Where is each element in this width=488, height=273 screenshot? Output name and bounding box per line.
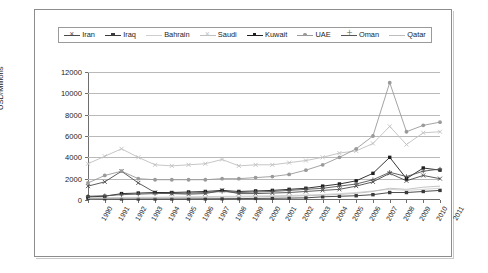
data-point-marker: [220, 197, 223, 200]
legend-swatch-qatar-icon: [389, 32, 405, 39]
data-point-marker: [371, 172, 374, 175]
data-point-marker: [388, 156, 391, 159]
legend-swatch-uae-icon: [297, 32, 313, 39]
data-point-marker: [136, 181, 140, 185]
x-tick-mark: [373, 200, 374, 203]
legend-item-iran[interactable]: ✕Iran: [64, 31, 95, 38]
data-point-marker: [270, 175, 274, 179]
chart-legend: ✕IranIraqBahrain✕SaudiKuwaitUAE＋OmanQata…: [58, 27, 432, 43]
series-line: [88, 186, 440, 198]
data-point-marker: [120, 169, 124, 173]
data-point-marker: [220, 177, 224, 181]
series-line: [88, 169, 440, 196]
data-point-marker: [438, 120, 442, 124]
data-point-marker: [304, 168, 308, 172]
data-point-marker: [388, 124, 392, 128]
legend-label: Iraq: [123, 31, 136, 38]
x-tick-mark: [306, 200, 307, 203]
legend-item-bahrain[interactable]: Bahrain: [146, 31, 189, 38]
data-point-marker: [405, 130, 409, 134]
data-point-marker: [405, 191, 408, 194]
data-point-marker: [153, 178, 157, 182]
data-point-marker: [422, 190, 425, 193]
data-point-marker: [354, 147, 358, 151]
legend-item-oman[interactable]: ＋Oman: [341, 31, 379, 38]
data-point-marker: [203, 178, 207, 182]
legend-swatch-iraq-icon: [105, 32, 121, 39]
legend-item-uae[interactable]: UAE: [297, 31, 330, 38]
series-saudi: [86, 124, 442, 167]
data-point-marker: [187, 178, 191, 182]
data-point-marker: [86, 181, 90, 185]
legend-swatch-oman-icon: ＋: [341, 32, 357, 39]
legend-label: Bahrain: [164, 31, 189, 38]
legend-swatch-bahrain-icon: [146, 32, 162, 39]
data-point-marker: [371, 134, 375, 138]
x-tick-mark: [356, 200, 357, 203]
legend-item-kuwait[interactable]: Kuwait: [247, 31, 287, 38]
legend-label: UAE: [315, 31, 330, 38]
x-tick-mark: [323, 200, 324, 203]
series-line: [88, 83, 440, 183]
data-point-marker: [287, 173, 291, 177]
x-tick-mark: [88, 200, 89, 203]
y-tick-label: 12000: [44, 68, 82, 77]
data-point-marker: [170, 178, 174, 182]
x-tick-mark: [272, 200, 273, 203]
data-point-marker: [388, 81, 392, 85]
data-point-marker: [136, 155, 140, 159]
x-tick-mark: [440, 200, 441, 203]
y-tick-label: 4000: [44, 153, 82, 162]
data-point-marker: [136, 177, 140, 181]
data-point-marker: [404, 143, 408, 147]
data-point-marker: [421, 123, 425, 127]
x-tick-mark: [256, 200, 257, 203]
data-point-marker: [103, 154, 107, 158]
data-point-marker: [354, 194, 357, 197]
series-uae: [86, 81, 442, 185]
x-tick-label: 2011: [452, 205, 466, 222]
data-point-marker: [237, 177, 241, 181]
y-tick-label: 6000: [44, 132, 82, 141]
x-tick-mark: [339, 200, 340, 203]
legend-label: Qatar: [407, 31, 425, 38]
data-point-marker: [103, 174, 107, 178]
y-axis-label: USD/Millions: [0, 67, 5, 110]
x-tick-mark: [222, 200, 223, 203]
data-point-marker: [338, 155, 342, 159]
legend-swatch-saudi-icon: ✕: [200, 32, 216, 39]
legend-label: Kuwait: [265, 31, 287, 38]
data-point-marker: [438, 189, 441, 192]
x-tick-mark: [423, 200, 424, 203]
y-tick-label: 2000: [44, 174, 82, 183]
data-point-marker: [338, 195, 341, 198]
legend-item-qatar[interactable]: Qatar: [389, 31, 425, 38]
y-tick-label: 10000: [44, 89, 82, 98]
legend-item-saudi[interactable]: ✕Saudi: [200, 31, 237, 38]
legend-label: Saudi: [218, 31, 237, 38]
data-point-marker: [254, 176, 258, 180]
data-point-marker: [371, 141, 375, 145]
data-point-marker: [271, 197, 274, 200]
series-lines: [88, 72, 440, 200]
x-tick-mark: [289, 200, 290, 203]
legend-label: Iran: [82, 31, 95, 38]
y-tick-label: 8000: [44, 110, 82, 119]
legend-label: Oman: [359, 31, 379, 38]
y-tick-label: 0: [44, 196, 82, 205]
data-point-marker: [321, 163, 325, 167]
data-point-marker: [120, 147, 124, 151]
x-tick-mark: [406, 200, 407, 203]
x-tick-mark: [239, 200, 240, 203]
series-qatar: [88, 186, 440, 198]
data-point-marker: [371, 193, 374, 196]
plot-area: [88, 72, 440, 200]
cut-off-caption: [34, 0, 464, 4]
legend-swatch-kuwait-icon: [247, 32, 263, 39]
legend-item-iraq[interactable]: Iraq: [105, 31, 136, 38]
x-tick-mark: [390, 200, 391, 203]
data-point-marker: [388, 191, 391, 194]
data-point-marker: [304, 196, 307, 199]
x-tick-mark: [105, 200, 106, 203]
figure-container: ✕IranIraqBahrain✕SaudiKuwaitUAE＋OmanQata…: [0, 0, 488, 273]
